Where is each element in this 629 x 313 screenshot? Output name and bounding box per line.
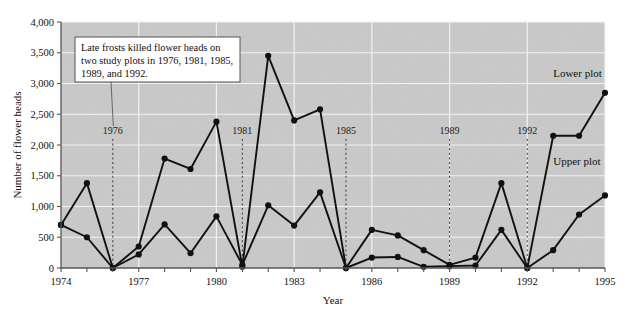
- event-marker-label-1985: 1985: [336, 125, 356, 136]
- data-point: [472, 254, 478, 260]
- data-point: [369, 227, 375, 233]
- event-marker-label-1981: 1981: [232, 125, 252, 136]
- y-axis-tick-label: 4,000: [30, 17, 54, 28]
- data-point: [291, 222, 297, 228]
- event-marker-label-1976: 1976: [103, 125, 123, 136]
- data-point: [317, 189, 323, 195]
- data-point: [265, 53, 271, 59]
- y-axis-tick-label: 500: [38, 232, 54, 243]
- data-point: [162, 155, 168, 161]
- x-axis-tick-label: 1989: [439, 276, 460, 287]
- flower-heads-line-chart: 19761981198519891992Lower plotUpper plot…: [0, 0, 629, 313]
- data-point: [421, 247, 427, 253]
- data-point: [550, 133, 556, 139]
- data-point: [291, 117, 297, 123]
- y-axis-tick-label: 3,000: [30, 78, 54, 89]
- data-point: [136, 251, 142, 257]
- data-point: [84, 180, 90, 186]
- x-axis-tick-label: 1995: [595, 276, 616, 287]
- x-axis-tick-label: 1977: [128, 276, 149, 287]
- series-label-lower-plot: Lower plot: [553, 67, 602, 79]
- y-axis-tick-label: 0: [49, 263, 54, 274]
- data-point: [317, 106, 323, 112]
- x-axis-title: Year: [323, 294, 344, 306]
- data-point: [602, 90, 608, 96]
- data-point: [136, 243, 142, 249]
- event-marker-label-1992: 1992: [517, 125, 537, 136]
- annotation-line: 1989, and 1992.: [81, 68, 148, 79]
- data-point: [162, 221, 168, 227]
- data-point: [369, 254, 375, 260]
- data-point: [187, 250, 193, 256]
- y-axis-tick-label: 2,500: [30, 109, 54, 120]
- event-marker-label-1989: 1989: [440, 125, 460, 136]
- data-point: [550, 247, 556, 253]
- y-axis-tick-label: 3,500: [30, 47, 54, 58]
- data-point: [498, 227, 504, 233]
- data-point: [239, 262, 245, 268]
- y-axis-title: Number of flower heads: [11, 91, 23, 198]
- y-axis-tick-label: 2,000: [30, 140, 54, 151]
- data-point: [265, 202, 271, 208]
- data-point: [395, 232, 401, 238]
- data-point: [395, 254, 401, 260]
- data-point: [576, 133, 582, 139]
- data-point: [576, 211, 582, 217]
- data-point: [213, 213, 219, 219]
- chart-container: 19761981198519891992Lower plotUpper plot…: [0, 0, 629, 313]
- y-axis-tick-label: 1,000: [30, 201, 54, 212]
- data-point: [84, 234, 90, 240]
- annotation-line: Late frosts killed flower heads on: [81, 42, 221, 53]
- data-point: [187, 166, 193, 172]
- x-axis-tick-label: 1980: [206, 276, 227, 287]
- series-label-upper-plot: Upper plot: [553, 155, 600, 167]
- x-axis-tick-label: 1986: [361, 276, 382, 287]
- x-axis-tick-label: 1983: [284, 276, 305, 287]
- y-axis-tick-label: 1,500: [30, 170, 54, 181]
- x-axis-tick-label: 1974: [51, 276, 73, 287]
- data-point: [498, 180, 504, 186]
- data-point: [213, 119, 219, 125]
- annotation-line: two study plots in 1976, 1981, 1985,: [81, 55, 233, 66]
- data-point: [602, 192, 608, 198]
- x-axis-tick-label: 1992: [517, 276, 538, 287]
